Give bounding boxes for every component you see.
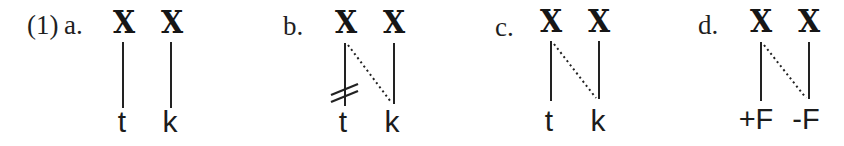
timing-slot-x-icon: X xyxy=(113,7,135,38)
panel-label-c: c. xyxy=(495,14,514,41)
segment-label-t: t xyxy=(339,107,347,137)
segment-label-k: k xyxy=(163,107,178,137)
segment-label-t: t xyxy=(118,107,126,137)
segment-label-minusF: -F xyxy=(792,105,819,134)
timing-slot-x-icon: X xyxy=(540,6,562,37)
figure-number: (1) xyxy=(27,12,58,39)
segment-label-k: k xyxy=(385,107,400,137)
timing-slot-x-icon: X xyxy=(161,7,183,38)
segment-label-t: t xyxy=(545,106,553,136)
autosegmental-figure: (1) a. X X t k b. X X t k c. X X t k d. … xyxy=(0,0,844,146)
dotted-assoc-line-d-x1-minusF xyxy=(764,45,806,98)
timing-slot-x-icon: X xyxy=(588,6,610,37)
segment-label-plusF: +F xyxy=(739,105,774,134)
timing-slot-x-icon: X xyxy=(798,6,820,37)
timing-slot-x-icon: X xyxy=(335,7,357,38)
panel-label-d: d. xyxy=(698,12,718,39)
timing-slot-x-icon: X xyxy=(383,7,405,38)
panel-label-b: b. xyxy=(283,13,303,40)
panel-label-a: a. xyxy=(64,12,83,39)
timing-slot-x-icon: X xyxy=(750,6,772,37)
dotted-assoc-line-c-x1-k xyxy=(554,44,596,98)
segment-label-k: k xyxy=(591,106,606,136)
